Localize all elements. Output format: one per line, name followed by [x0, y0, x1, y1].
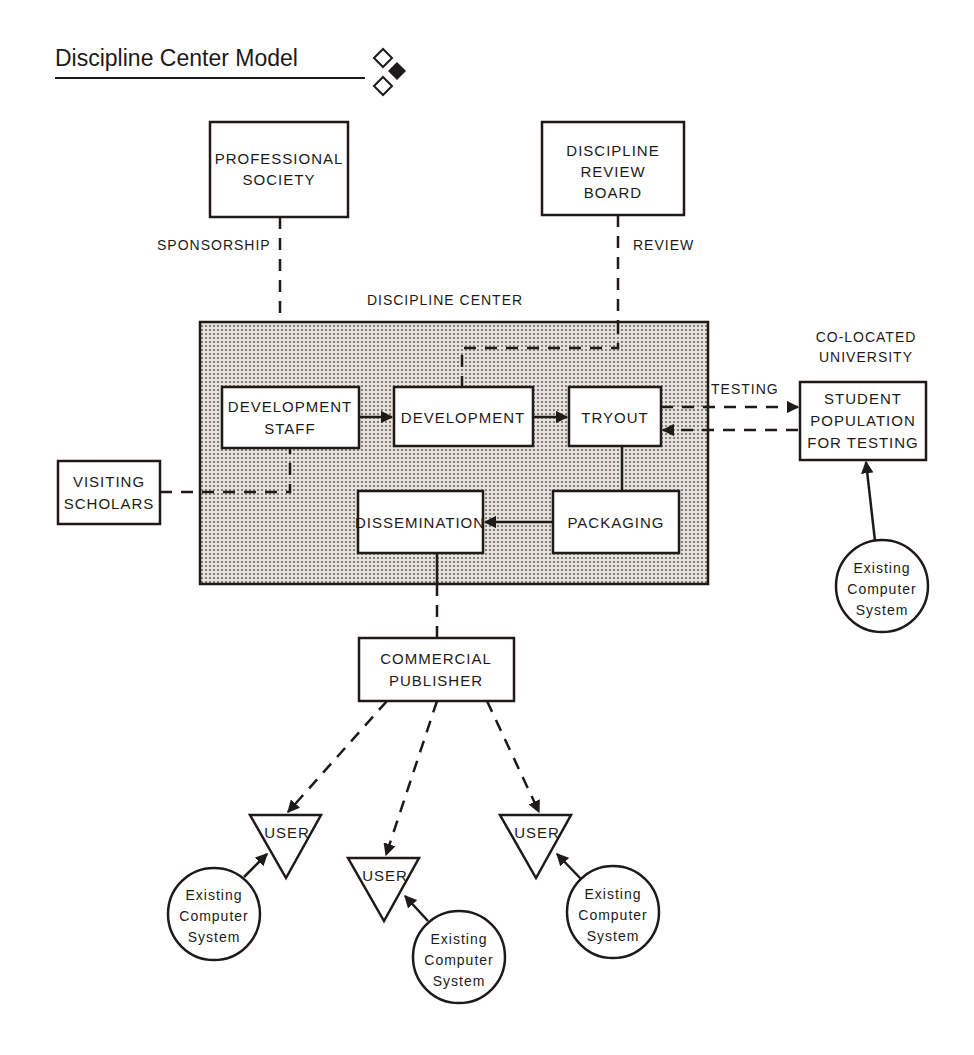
existing-computer-system-node-user1[interactable]: Existing Computer System	[168, 868, 260, 960]
publisher-to-user2-edge	[386, 701, 437, 855]
ecs-label-2: Computer	[847, 581, 916, 597]
ecs2-label-2: Computer	[424, 952, 493, 968]
student-population-node[interactable]: STUDENT POPULATION FOR TESTING	[800, 382, 926, 460]
ecs2-label-3: System	[433, 973, 486, 989]
user-2-node[interactable]: USER	[348, 858, 419, 921]
sponsorship-label: SPONSORSHIP	[157, 237, 271, 253]
user-2-label: USER	[362, 867, 408, 884]
publisher-label-2: PUBLISHER	[389, 672, 483, 689]
development-node[interactable]: DEVELOPMENT	[394, 387, 533, 446]
visiting-scholars-label-1: VISITING	[73, 473, 145, 490]
tryout-node[interactable]: TRYOUT	[569, 387, 661, 446]
diamond-logo-icon	[374, 49, 406, 95]
user-1-label: USER	[264, 824, 310, 841]
existing-computer-system-node-university[interactable]: Existing Computer System	[836, 540, 928, 632]
discipline-review-board-node[interactable]: DISCIPLINE REVIEW BOARD	[542, 122, 684, 215]
development-staff-label-2: STAFF	[264, 420, 315, 437]
packaging-label: PACKAGING	[567, 514, 664, 531]
discipline-center-label: DISCIPLINE CENTER	[367, 292, 523, 308]
computer-to-students-edge	[866, 462, 875, 541]
ecs1-label-2: Computer	[179, 908, 248, 924]
dissemination-label: DISSEMINATION	[355, 514, 485, 531]
development-label: DEVELOPMENT	[401, 409, 525, 426]
ecs2-label-1: Existing	[430, 931, 487, 947]
existing-computer-system-node-user2[interactable]: Existing Computer System	[413, 911, 505, 1003]
visiting-scholars-label-2: SCHOLARS	[64, 495, 155, 512]
computer-to-user1-edge	[244, 854, 267, 877]
student-population-label-1: STUDENT	[824, 390, 902, 407]
page-title: Discipline Center Model	[55, 45, 298, 71]
publisher-label-1: COMMERCIAL	[380, 650, 492, 667]
development-staff-label-1: DEVELOPMENT	[228, 398, 352, 415]
development-staff-node[interactable]: DEVELOPMENT STAFF	[222, 387, 359, 448]
co-located-label-1: CO-LOCATED	[816, 329, 917, 345]
ecs1-label-3: System	[188, 929, 241, 945]
computer-to-user3-edge	[557, 854, 581, 879]
user-3-label: USER	[514, 824, 560, 841]
co-located-label-2: UNIVERSITY	[819, 349, 913, 365]
visiting-scholars-node[interactable]: VISITING SCHOLARS	[58, 461, 160, 524]
computer-to-user2-edge	[405, 896, 428, 921]
professional-society-node[interactable]: PROFESSIONAL SOCIETY	[210, 122, 348, 217]
user-3-node[interactable]: USER	[500, 815, 571, 878]
student-population-label-2: POPULATION	[810, 412, 916, 429]
commercial-publisher-node[interactable]: COMMERCIAL PUBLISHER	[359, 638, 514, 701]
existing-computer-system-node-user3[interactable]: Existing Computer System	[567, 866, 659, 958]
ecs3-label-2: Computer	[578, 907, 647, 923]
ecs3-label-3: System	[587, 928, 640, 944]
discipline-center-diagram: Discipline Center Model PROFESSIONAL SOC…	[0, 0, 974, 1055]
dissemination-node[interactable]: DISSEMINATION	[355, 491, 485, 553]
publisher-to-user3-edge	[487, 701, 539, 812]
packaging-node[interactable]: PACKAGING	[553, 491, 679, 553]
review-board-label-1: DISCIPLINE	[566, 142, 659, 159]
ecs3-label-1: Existing	[584, 886, 641, 902]
professional-society-label-1: PROFESSIONAL	[215, 150, 344, 167]
ecs-label-1: Existing	[853, 560, 910, 576]
user-1-node[interactable]: USER	[250, 815, 321, 878]
review-board-label-2: REVIEW	[580, 163, 645, 180]
tryout-label: TRYOUT	[581, 409, 648, 426]
testing-label: TESTING	[711, 381, 779, 397]
ecs-label-3: System	[856, 602, 909, 618]
student-population-label-3: FOR TESTING	[807, 434, 919, 451]
review-label: REVIEW	[633, 237, 694, 253]
ecs1-label-1: Existing	[185, 887, 242, 903]
professional-society-label-2: SOCIETY	[243, 171, 316, 188]
publisher-to-user1-edge	[288, 701, 387, 812]
review-board-label-3: BOARD	[584, 184, 642, 201]
